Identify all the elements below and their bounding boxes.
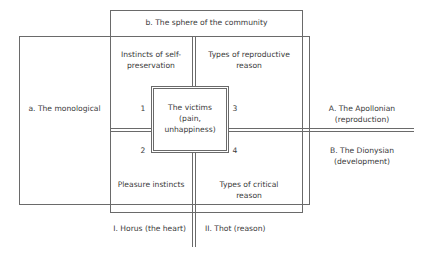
monological-label: a. The monological	[19, 104, 110, 114]
dionysian-line2: (development)	[310, 157, 414, 167]
center-line1: The victims	[151, 103, 229, 113]
apollonian-line1: A. The Apollonian	[310, 104, 414, 114]
horizontal-axis-right-b	[229, 131, 414, 132]
quadrant-bottom-left-line1: Pleasure instincts	[110, 180, 192, 190]
quadrant-top-left-line1: Instincts of self-	[110, 50, 192, 60]
quadrant-number-4: 4	[230, 146, 240, 156]
vertical-axis-top-a	[192, 36, 193, 86]
apollonian-line2: (reproduction)	[310, 115, 414, 125]
quadrant-top-right-line1: Types of reproductive	[196, 50, 302, 60]
horus-label: I. Horus (the heart)	[100, 224, 186, 234]
quadrant-bottom-right-line1: Types of critical	[196, 180, 302, 190]
quadrant-top-right-line2: reason	[196, 61, 302, 71]
horizontal-axis-left-a	[110, 128, 151, 129]
quadrant-top-left-line2: preservation	[110, 61, 192, 71]
dionysian-line1: B. The Dionysian	[310, 146, 414, 156]
quadrant-number-1: 1	[138, 104, 148, 114]
center-line2: (pain,	[151, 114, 229, 124]
horizontal-axis-left-b	[110, 131, 151, 132]
quadrant-number-2: 2	[138, 146, 148, 156]
vertical-axis-bottom-a	[192, 153, 193, 247]
center-line3: unhappiness)	[151, 125, 229, 135]
thot-label: II. Thot (reason)	[205, 224, 305, 234]
horizontal-axis-right-a	[229, 128, 414, 129]
quadrant-bottom-right-line2: reason	[196, 191, 302, 201]
community-label: b. The sphere of the community	[110, 18, 303, 28]
community-divider	[110, 36, 310, 37]
quadrant-number-3: 3	[230, 104, 240, 114]
